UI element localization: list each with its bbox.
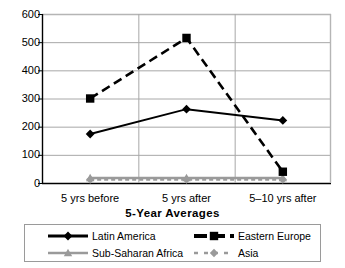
legend-label: Eastern Europe	[238, 230, 311, 242]
legend-label: Sub-Saharan Africa	[92, 247, 183, 259]
plot-area	[0, 0, 345, 190]
y-axis-tick-label: 300	[4, 93, 40, 104]
y-axis-tick-label: 500	[4, 37, 40, 48]
legend-row: Sub-Saharan Africa Asia	[25, 244, 320, 261]
y-axis-tick-label: 100	[4, 149, 40, 160]
y-axis-tick-label: 0	[4, 178, 40, 189]
legend-label: Asia	[238, 247, 258, 259]
legend-marker-sub-saharan-africa	[47, 246, 89, 260]
data-point-marker-square	[279, 168, 287, 176]
plot-svg	[0, 0, 345, 190]
data-point-marker-square	[86, 94, 94, 102]
data-point-marker-diamond	[182, 105, 191, 114]
x-axis-tick-label: 5 yrs before	[42, 192, 138, 205]
data-point-marker-diamond	[86, 130, 95, 139]
legend-marker-eastern-europe	[193, 229, 235, 243]
data-point-marker-diamond	[86, 175, 94, 183]
y-axis-tick-label: 400	[4, 65, 40, 76]
data-point-marker-square	[182, 34, 190, 42]
data-point-marker-diamond	[182, 175, 190, 183]
y-axis-tick-label: 200	[4, 121, 40, 132]
series-asia	[86, 175, 287, 183]
data-point-marker-diamond	[64, 231, 73, 240]
chart-legend: Latin America Eastern Europe Sub-Saharan…	[24, 224, 321, 262]
data-point-marker-square	[210, 231, 218, 239]
data-point-marker-diamond	[278, 116, 287, 125]
legend-marker-asia	[193, 246, 235, 260]
legend-item-latin-america: Latin America	[47, 227, 156, 244]
series-latin-america	[86, 105, 287, 139]
y-axis-tick-labels: 0100200300400500600	[0, 0, 40, 190]
data-point-marker-diamond	[279, 175, 287, 183]
x-axis-tick-labels: 5 yrs before5 yrs after5–10 yrs after	[42, 192, 332, 208]
legend-row: Latin America Eastern Europe	[25, 227, 320, 244]
x-axis-tick-label: 5–10 yrs after	[235, 192, 331, 205]
legend-label: Latin America	[92, 230, 156, 242]
legend-item-eastern-europe: Eastern Europe	[193, 227, 311, 244]
x-axis-title: 5-Year Averages	[0, 207, 345, 219]
data-point-marker-diamond	[210, 248, 218, 256]
x-axis-tick-label: 5 yrs after	[139, 192, 235, 205]
legend-item-asia: Asia	[193, 244, 258, 261]
legend-marker-latin-america	[47, 229, 89, 243]
line-chart: 0100200300400500600 5 yrs before5 yrs af…	[0, 0, 345, 268]
y-axis-tick-label: 600	[4, 9, 40, 20]
legend-item-sub-saharan-africa: Sub-Saharan Africa	[47, 244, 183, 261]
